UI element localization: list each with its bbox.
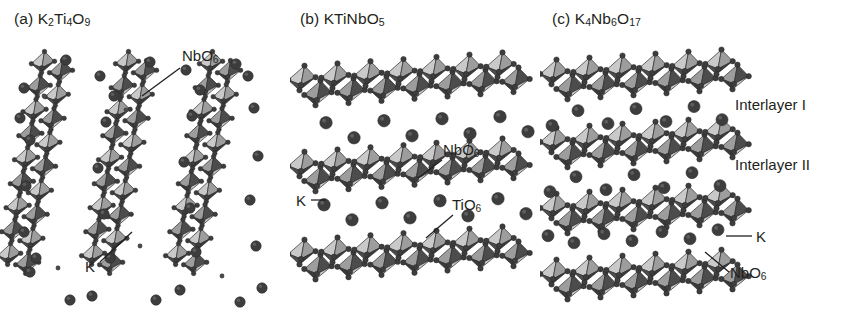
panel-b-label-nbo6: NbO6 [443,141,480,159]
panel-a-structure [0,0,290,314]
panel-b-ktinbo5: (b) KTiNbO5 NbO6 K TiO6 [290,0,540,314]
panel-a-label-nbo6: NbO6 [182,47,219,65]
panel-b-label-tio6: TiO6 [452,196,481,214]
panel-c-label-k: K [756,228,766,245]
panel-b-label-k: K [296,192,306,209]
panel-c-structure [540,0,866,314]
panel-c-label-nbo6: NbO6 [730,264,767,282]
panel-c-label-interlayer-2: Interlayer II [735,156,810,173]
panel-c-label-interlayer-1: Interlayer I [735,96,806,113]
panel-a-k2ti4o9: (a) K2Ti4O9 NbO6 K [0,0,290,314]
panel-b-structure [290,0,540,314]
panel-c-k4nb6o17: (c) K4Nb6O17 Interlayer I Interlayer II … [540,0,866,314]
panel-a-label-k: K [85,258,95,275]
crystal-structure-figure: (a) K2Ti4O9 NbO6 K (b) KTiNbO5 NbO6 K Ti… [0,0,866,314]
